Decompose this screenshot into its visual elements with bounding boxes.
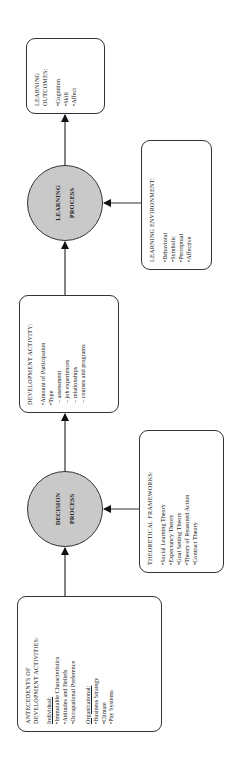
learning-outcomes-title: LEARNING OUTCOMES:	[33, 46, 49, 106]
list-item: Amount of Participation	[39, 303, 47, 405]
development-activity-box: DEVELOPMENT ACTIVITY: Amount of Particip…	[19, 295, 119, 413]
list-item: Pay Systems	[107, 604, 115, 724]
theoretical-frameworks-box: THEORETICAL FRAMEWORKS: Social Learning …	[139, 430, 224, 573]
organizational-label: Organizational:	[84, 604, 92, 724]
learning-outcomes-title-line2: OUTCOMES:	[41, 46, 49, 106]
learning-process-node: LEARNING PROCESS	[27, 165, 103, 241]
development-activity-list: Amount of Participation Type assessment …	[39, 303, 87, 405]
list-item: Contract Theory	[191, 438, 199, 565]
individual-list: Immutable Characteristics Attitudes and …	[53, 604, 77, 724]
list-item: Perceptual	[177, 148, 185, 262]
learning-environment-title: LEARNING ENVIRONMENT:	[148, 148, 156, 262]
decision-label-line1: DECISION	[51, 493, 66, 526]
learning-outcomes-list: Cognition Skill Affect	[54, 46, 78, 106]
list-item: Business Strategy	[92, 604, 100, 724]
learning-outcomes-box: LEARNING OUTCOMES: Cognition Skill Affec…	[26, 38, 105, 114]
antecedents-title-line2: DEVELOPMENT ACTIVITIES:	[32, 604, 40, 724]
antecedents-box: ANTECEDENTS OF DEVELOPMENT ACTIVITIES: I…	[17, 596, 162, 732]
list-item: Affective	[185, 148, 193, 262]
list-item: Goal Setting Theory	[175, 438, 183, 565]
antecedents-title: ANTECEDENTS OF DEVELOPMENT ACTIVITIES:	[24, 604, 40, 724]
list-item: Type	[47, 303, 55, 405]
list-item: Attitudes and Beliefs	[61, 604, 69, 724]
list-item: Theory of Reasoned Action	[183, 438, 191, 565]
decision-process-node: DECISION PROCESS	[27, 471, 103, 547]
list-item: Social Learning Theory	[159, 438, 167, 565]
learning-environment-list: Behavioral Symbolic Perceptual Affective	[161, 148, 193, 262]
diagram-canvas: ANTECEDENTS OF DEVELOPMENT ACTIVITIES: I…	[0, 0, 238, 780]
list-item: Affect	[70, 46, 78, 106]
theoretical-frameworks-title: THEORETICAL FRAMEWORKS:	[146, 438, 154, 565]
list-item: Immutable Characteristics	[53, 604, 61, 724]
list-item: Expectancy Theory	[167, 438, 175, 565]
list-item: Skill	[62, 46, 70, 106]
list-item: Occupational Preference	[69, 604, 77, 724]
list-item: Symbolic	[169, 148, 177, 262]
development-activity-title: DEVELOPMENT ACTIVITY:	[26, 303, 34, 405]
individual-label: Individual:	[45, 604, 53, 724]
learning-outcomes-title-line1: LEARNING	[33, 46, 41, 106]
sub-list-item: relationships	[71, 303, 79, 405]
theoretical-frameworks-list: Social Learning Theory Expectancy Theory…	[159, 438, 199, 565]
list-item: Climate	[100, 604, 108, 724]
sub-list-item: courses and programs	[79, 303, 87, 405]
antecedents-title-line1: ANTECEDENTS OF	[24, 604, 32, 724]
organizational-list: Business Strategy Climate Pay Systems	[92, 604, 116, 724]
learning-environment-box: LEARNING ENVIRONMENT: Behavioral Symboli…	[141, 140, 212, 270]
learning-label-line2: PROCESS	[65, 188, 80, 218]
list-item: Cognition	[54, 46, 62, 106]
list-item: Behavioral	[161, 148, 169, 262]
decision-label-line2: PROCESS	[65, 494, 80, 524]
sub-list-item: job experiences	[63, 303, 71, 405]
sub-list-item: assessment	[55, 303, 63, 405]
learning-label-line1: LEARNING	[51, 185, 66, 221]
